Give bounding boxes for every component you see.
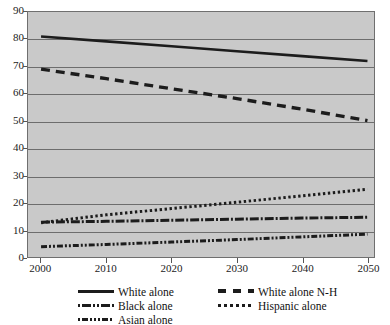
legend-line-swatch-icon <box>218 304 254 307</box>
y-axis-tick-mark <box>23 258 27 259</box>
plot-area <box>27 11 375 258</box>
series-layer <box>28 12 374 257</box>
y-axis-tick-label: 80 <box>0 32 24 43</box>
legend-item-label: Asian alone <box>118 314 173 325</box>
legend-item[interactable]: White alone N-H <box>218 285 337 298</box>
x-axis-tick-mark <box>106 258 107 263</box>
legend-item[interactable]: Asian alone <box>78 313 173 325</box>
legend-item-label: Hispanic alone <box>258 300 327 312</box>
series-line-hispanic-alone <box>41 189 367 222</box>
x-axis-tick-label: 2040 <box>280 262 326 274</box>
x-axis-tick-mark <box>303 258 304 263</box>
line-chart: 0102030405060708090 20002010202020302040… <box>0 0 390 325</box>
legend-item-label: White alone <box>118 286 174 298</box>
legend-line-swatch-icon <box>78 304 114 307</box>
x-axis-tick-label: 2010 <box>83 262 129 274</box>
series-line-white-alone-n-h <box>41 69 367 120</box>
x-axis-tick-mark <box>171 258 172 263</box>
y-axis-tick-label: 10 <box>0 225 24 236</box>
legend-line-swatch-icon <box>218 289 254 293</box>
legend-item-label: White alone N-H <box>258 286 337 298</box>
legend-line-swatch-icon <box>78 290 114 293</box>
chart-legend: White aloneWhite alone N-HBlack aloneHis… <box>78 285 368 325</box>
y-axis-tick-labels: 0102030405060708090 <box>0 0 24 325</box>
x-axis-tick-mark <box>237 258 238 263</box>
series-line-black-alone <box>41 217 367 222</box>
x-axis-tick-label: 2020 <box>148 262 194 274</box>
y-axis-tick-label: 90 <box>0 5 24 16</box>
y-axis-tick-label: 40 <box>0 142 24 153</box>
y-axis-tick-label: 30 <box>0 170 24 181</box>
legend-item[interactable]: Black alone <box>78 299 173 312</box>
legend-item-label: Black alone <box>118 300 173 312</box>
series-line-asian-alone <box>41 234 367 247</box>
y-axis-tick-label: 20 <box>0 197 24 208</box>
legend-line-swatch-icon <box>78 318 114 321</box>
x-axis-tick-label: 2050 <box>345 262 390 274</box>
x-axis-tick-mark <box>40 258 41 263</box>
y-axis-tick-label: 60 <box>0 87 24 98</box>
x-axis-tick-label: 2000 <box>17 262 63 274</box>
series-line-white-alone <box>41 37 367 62</box>
x-axis-tick-mark <box>368 258 369 263</box>
legend-item[interactable]: Hispanic alone <box>218 299 327 312</box>
y-axis-tick-label: 50 <box>0 115 24 126</box>
y-axis-tick-label: 70 <box>0 60 24 71</box>
x-axis-tick-label: 2030 <box>214 262 260 274</box>
legend-item[interactable]: White alone <box>78 285 174 298</box>
